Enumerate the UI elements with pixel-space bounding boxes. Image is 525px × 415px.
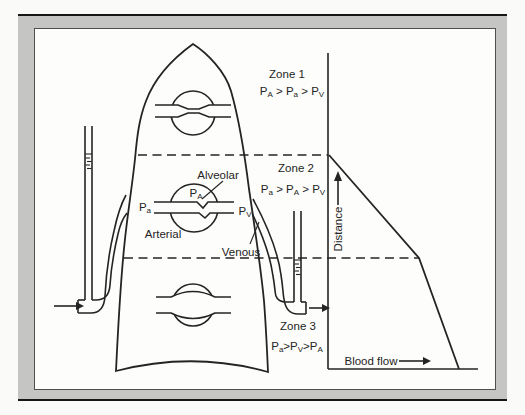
diagram-artwork	[35, 29, 495, 389]
pressure-base: P	[261, 183, 269, 195]
relation-operator: >	[273, 85, 286, 97]
pressure-sub: a	[147, 206, 151, 215]
pressure-sub: V	[319, 90, 324, 99]
relation-operator: >	[303, 340, 310, 352]
distance-axis-arrow	[334, 171, 342, 205]
flow-distance-graph	[328, 53, 478, 369]
relation-operator: >	[299, 183, 312, 195]
pressure-base: P	[189, 187, 197, 199]
distance-axis-label: Distance	[332, 207, 345, 252]
arterial-manometer	[85, 126, 92, 300]
pressure-sub: V	[246, 210, 251, 219]
pressure-base: P	[286, 85, 294, 97]
pressure-sub: V	[320, 188, 325, 197]
blood-flow-axis-label: Blood flow	[344, 355, 397, 368]
figure-page: { "colors": { "ink": "#242424", "frame_g…	[0, 0, 525, 415]
pressure-base: P	[260, 85, 268, 97]
pressure-sub: A	[317, 345, 322, 354]
pressure-base: P	[286, 183, 294, 195]
zone2-pressure-relation: Pa > PA > PV	[261, 183, 325, 196]
pressure-base: P	[312, 183, 320, 195]
alveolar-pressure-label: PA	[189, 187, 202, 200]
flow-in-arrow	[54, 302, 84, 310]
blood-flow-axis-arrow	[399, 357, 431, 365]
venous-pressure-label: PV	[238, 205, 251, 218]
blood-flow-curve	[329, 155, 459, 369]
zone3-label: Zone 3	[280, 320, 316, 333]
relation-operator: >	[298, 85, 311, 97]
pressure-base: P	[271, 340, 279, 352]
relation-operator: >	[273, 183, 286, 195]
alveolar-label: Alveolar	[197, 169, 239, 182]
pressure-base: P	[139, 201, 147, 213]
pressure-base: P	[311, 85, 319, 97]
zone2-label: Zone 2	[278, 162, 314, 175]
figure-plate: Zone 1 PA > Pa > PV Zone 2 Pa > PA > PV …	[18, 14, 507, 401]
zone3-pressure-relation: Pa>PV>PA	[271, 340, 323, 353]
figure-panel: Zone 1 PA > Pa > PV Zone 2 Pa > PA > PV …	[34, 28, 496, 390]
relation-operator: >	[283, 340, 290, 352]
pressure-base: P	[290, 340, 298, 352]
venous-manometer	[294, 211, 301, 302]
pressure-base: P	[238, 205, 246, 217]
arterial-label: Arterial	[145, 228, 181, 241]
zone1-pressure-relation: PA > Pa > PV	[260, 85, 324, 98]
venous-label: Venous	[222, 246, 260, 259]
arterial-pressure-label: Pa	[139, 201, 151, 214]
pressure-sub: A	[197, 192, 202, 201]
zone1-label: Zone 1	[269, 68, 305, 81]
flow-out-arrow	[309, 304, 330, 312]
